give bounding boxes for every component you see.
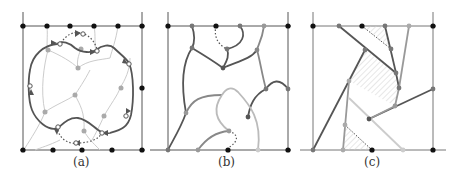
panel-b-frame [150,12,291,152]
panel-c-label: (c) [364,155,380,169]
panel-b-dotted-bottom [228,131,236,148]
panel-a-loop [29,42,133,133]
panel-b-dotted-top [215,26,227,49]
panel-c: (c) [300,12,446,169]
panel-b: (b) [150,12,291,169]
panel-a-dotted-arc-top [61,32,97,49]
panel-b-gray-nodes [166,24,291,153]
panel-a-boundary-nodes [20,23,144,152]
panel-b-label: (b) [218,155,235,169]
panel-a: (a) [20,12,145,169]
panel-b-light-curves [216,88,258,150]
figure: (a) [0,0,462,178]
panel-b-boundary-nodes [165,23,290,152]
panel-b-mid-curves [186,26,266,150]
panel-a-label: (a) [73,155,90,169]
